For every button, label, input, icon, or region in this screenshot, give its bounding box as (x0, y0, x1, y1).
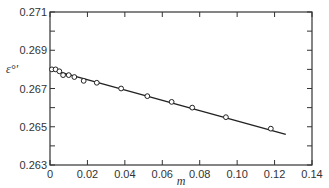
x-axis-title: m (177, 174, 186, 188)
data-point (57, 69, 62, 74)
data-point (224, 115, 229, 120)
x-tick-label: 0.14 (301, 168, 322, 180)
y-axis-title: ε°' (6, 62, 19, 76)
data-point (72, 75, 77, 80)
data-point (119, 86, 124, 91)
x-tick-label: 0.08 (189, 168, 210, 180)
data-point (61, 73, 66, 78)
y-tick-label: 0.267 (19, 83, 47, 95)
data-point (81, 78, 86, 83)
data-point (190, 105, 195, 110)
axis-ticks (50, 12, 312, 165)
data-point (145, 94, 150, 99)
x-tick-label: 0.04 (114, 168, 135, 180)
data-point (268, 126, 273, 131)
x-tick-label: 0.02 (77, 168, 98, 180)
y-tick-label: 0.265 (19, 121, 47, 133)
data-point (66, 73, 71, 78)
x-tick-label: 0.12 (264, 168, 285, 180)
plot-border (50, 12, 312, 165)
x-tick-label: 0.10 (226, 168, 247, 180)
chart-figure: 00.020.040.060.080.100.120.14 0.2630.265… (0, 0, 329, 188)
plot-frame (50, 12, 312, 165)
y-tick-label: 0.263 (19, 159, 47, 171)
y-tick-labels: 0.2630.2650.2670.2690.271 (19, 6, 47, 171)
x-tick-label: 0.06 (152, 168, 173, 180)
y-tick-label: 0.271 (19, 6, 47, 18)
data-point (169, 99, 174, 104)
y-tick-label: 0.269 (19, 44, 47, 56)
x-tick-label: 0 (47, 168, 53, 180)
data-point (94, 80, 99, 85)
